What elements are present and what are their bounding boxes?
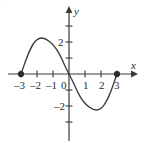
x-tick-label-neg2: –2 [30,80,41,91]
graph-figure: · [0,0,144,143]
y-tick-label-neg2: –2 [54,101,65,112]
coordinate-plane-svg [0,0,144,143]
x-tick-label-pos2: 2 [99,80,105,91]
y-axis-name-label: y [74,6,79,17]
right-endpoint-dot [114,71,120,77]
x-tick-label-pos1: 1 [83,80,89,91]
x-tick-label-neg1: –1 [46,80,57,91]
x-tick-label-pos3: 3 [114,80,120,91]
left-endpoint-dot [18,71,24,77]
y-tick-label-pos2: 2 [58,37,64,48]
x-tick-label-neg3: –3 [14,80,25,91]
x-axis-name-label: x [131,60,136,71]
origin-label: 0 [61,80,67,91]
x-axis-arrowhead [131,71,138,78]
y-axis-arrowhead [66,6,73,13]
